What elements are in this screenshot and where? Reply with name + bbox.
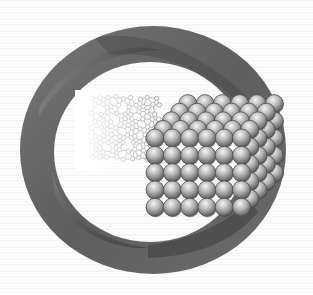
illustration-scene: Nanomaterial structure illustration: [0, 0, 313, 295]
nanostructure-illustration: [0, 0, 313, 295]
